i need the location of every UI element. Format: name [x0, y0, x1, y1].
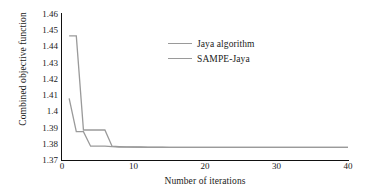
series-line [69, 98, 348, 147]
y-tick-label: 1.4 [24, 107, 58, 116]
legend-item[interactable]: Jaya algorithm [168, 36, 255, 51]
y-tick-label: 1.44 [24, 42, 58, 51]
legend-label: Jaya algorithm [197, 39, 255, 49]
legend-line-icon [168, 43, 192, 44]
y-tick-label: 1.43 [24, 58, 58, 67]
y-tick-label: 1.45 [24, 26, 58, 35]
y-tick-label: 1.42 [24, 74, 58, 83]
x-tick-label: 20 [190, 162, 220, 171]
legend-item[interactable]: SAMPE-Jaya [168, 51, 255, 66]
y-axis-tick-labels: 1.371.381.391.41.411.421.431.441.451.46 [22, 14, 58, 160]
x-axis-tick-labels: 010203040 [62, 162, 348, 174]
x-tick-label: 30 [262, 162, 292, 171]
chart-figure: Combined objective function 1.371.381.39… [0, 0, 369, 195]
x-tick-label: 10 [119, 162, 149, 171]
legend-line-icon [168, 58, 192, 59]
chart-legend: Jaya algorithmSAMPE-Jaya [168, 36, 255, 66]
y-tick-label: 1.38 [24, 139, 58, 148]
y-tick-label: 1.46 [24, 10, 58, 19]
y-tick-label: 1.39 [24, 123, 58, 132]
x-tick-label: 40 [333, 162, 363, 171]
x-tick-label: 0 [47, 162, 77, 171]
x-axis-label: Number of iterations [62, 176, 348, 186]
legend-label: SAMPE-Jaya [197, 54, 250, 64]
y-tick-label: 1.41 [24, 91, 58, 100]
